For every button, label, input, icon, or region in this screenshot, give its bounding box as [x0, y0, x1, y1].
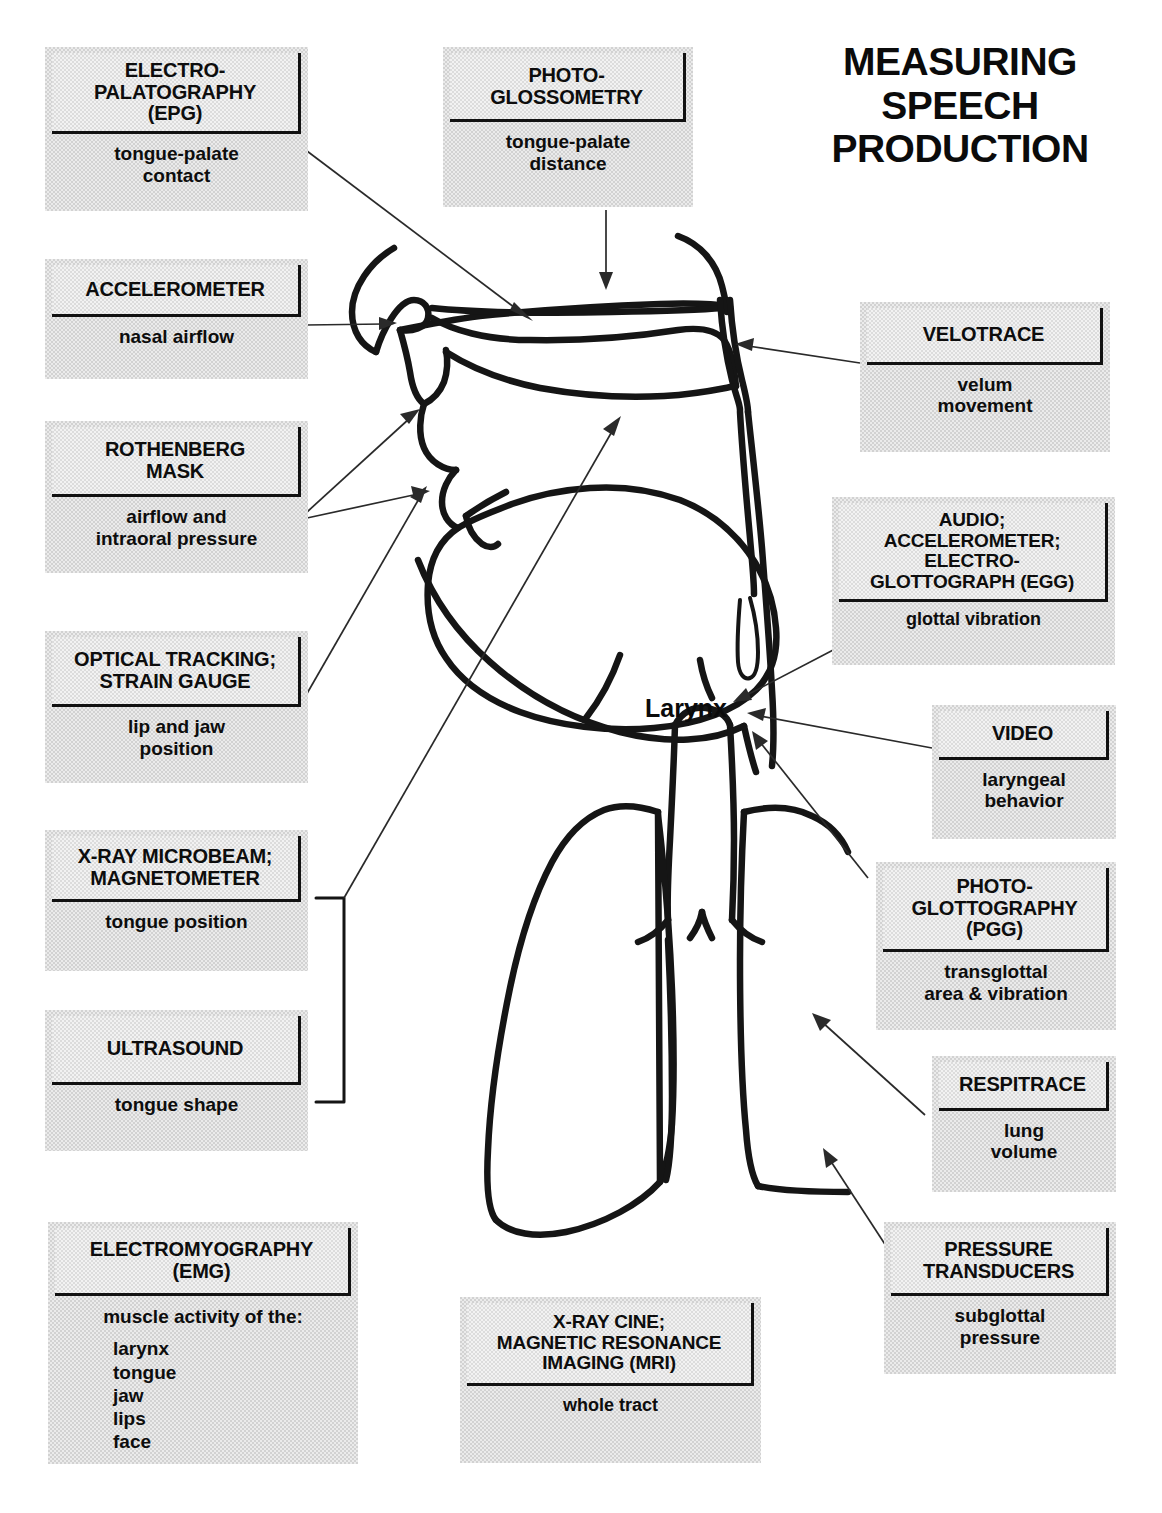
box-ultrasound-desc: tongue shape [52, 1094, 301, 1116]
box-audio-egg-desc: glottal vibration [839, 609, 1108, 630]
box-video-title: VIDEO [945, 723, 1100, 745]
box-electromyography[interactable]: ELECTROMYOGRAPHY (EMG) muscle activity o… [48, 1222, 358, 1464]
box-photoglottography-inner: PHOTO- GLOTTOGRAPHY (PGG) [883, 868, 1109, 952]
box-accelerometer[interactable]: ACCELEROMETER nasal airflow [45, 259, 308, 379]
box-respitrace[interactable]: RESPITRACE lung volume [932, 1056, 1116, 1192]
box-xray-cine-mri[interactable]: X-RAY CINE; MAGNETIC RESONANCE IMAGING (… [460, 1297, 761, 1463]
box-velotrace-desc: velum movement [867, 374, 1103, 418]
box-photoglottography[interactable]: PHOTO- GLOTTOGRAPHY (PGG) transglottal a… [876, 862, 1116, 1030]
box-xray-cine-mri-desc: whole tract [467, 1395, 754, 1416]
arrow-velotrace [735, 338, 860, 363]
box-audio-egg[interactable]: AUDIO; ACCELEROMETER; ELECTRO- GLOTTOGRA… [832, 497, 1115, 665]
arrow-video [747, 708, 932, 748]
box-photoglossometry[interactable]: PHOTO- GLOSSOMETRY tongue-palate distanc… [443, 47, 693, 207]
box-xray-microbeam-inner: X-RAY MICROBEAM; MAGNETOMETER [52, 836, 301, 902]
box-accelerometer-inner: ACCELEROMETER [52, 265, 301, 317]
box-velotrace-inner: VELOTRACE [867, 308, 1103, 365]
box-photoglossometry-desc: tongue-palate distance [450, 131, 686, 175]
box-video-inner: VIDEO [939, 711, 1109, 760]
box-electromyography-desc: muscle activity of the: [55, 1305, 351, 1328]
arrow-pressure [823, 1148, 890, 1252]
diagram-canvas: MEASURING SPEECH PRODUCTION Larynx ELECT… [0, 0, 1162, 1513]
box-accelerometer-desc: nasal airflow [52, 326, 301, 348]
box-xray-cine-mri-title: X-RAY CINE; MAGNETIC RESONANCE IMAGING (… [473, 1312, 745, 1374]
box-audio-egg-title: AUDIO; ACCELEROMETER; ELECTRO- GLOTTOGRA… [845, 510, 1099, 592]
box-ultrasound[interactable]: ULTRASOUND tongue shape [45, 1010, 308, 1151]
box-electromyography-inner: ELECTROMYOGRAPHY (EMG) [55, 1228, 351, 1296]
arrow-rothenberg-nose [307, 409, 420, 512]
box-photoglottography-title: PHOTO- GLOTTOGRAPHY (PGG) [889, 876, 1100, 941]
box-photoglossometry-title: PHOTO- GLOSSOMETRY [456, 65, 677, 108]
box-rothenberg-mask-desc: airflow and intraoral pressure [52, 506, 301, 550]
arrow-tongue [344, 416, 621, 898]
box-pressure-transducers-inner: PRESSURE TRANSDUCERS [891, 1228, 1109, 1296]
box-ultrasound-inner: ULTRASOUND [52, 1016, 301, 1085]
box-electropalatography[interactable]: ELECTRO- PALATOGRAPHY (EPG) tongue-palat… [45, 47, 308, 211]
arrow-pgg [752, 731, 868, 878]
box-xray-microbeam[interactable]: X-RAY MICROBEAM; MAGNETOMETER tongue pos… [45, 830, 308, 971]
box-rothenberg-mask-inner: ROTHENBERG MASK [52, 427, 301, 497]
box-pressure-transducers-desc: subglottal pressure [891, 1305, 1109, 1349]
box-rothenberg-mask-title: ROTHENBERG MASK [58, 439, 292, 482]
larynx-label: Larynx [645, 694, 727, 723]
box-optical-tracking-title: OPTICAL TRACKING; STRAIN GAUGE [58, 649, 292, 692]
box-video-desc: laryngeal behavior [939, 769, 1109, 813]
box-electropalatography-title: ELECTRO- PALATOGRAPHY (EPG) [58, 60, 292, 125]
box-photoglottography-desc: transglottal area & vibration [883, 961, 1109, 1005]
box-respitrace-inner: RESPITRACE [939, 1062, 1109, 1111]
box-optical-tracking[interactable]: OPTICAL TRACKING; STRAIN GAUGE lip and j… [45, 631, 308, 783]
arrow-accelerometer [306, 317, 397, 330]
box-electropalatography-desc: tongue-palate contact [52, 143, 301, 187]
box-electromyography-muscle-list: larynx tongue jaw lips face [55, 1337, 351, 1453]
arrow-audio-egg [733, 648, 837, 702]
arrow-optical [305, 486, 427, 697]
box-respitrace-title: RESPITRACE [945, 1074, 1100, 1096]
box-xray-microbeam-title: X-RAY MICROBEAM; MAGNETOMETER [58, 846, 292, 889]
box-ultrasound-title: ULTRASOUND [58, 1038, 292, 1060]
box-respitrace-desc: lung volume [939, 1120, 1109, 1164]
arrow-rothenberg-lips [307, 486, 430, 518]
box-electropalatography-inner: ELECTRO- PALATOGRAPHY (EPG) [52, 53, 301, 134]
box-electromyography-title: ELECTROMYOGRAPHY (EMG) [61, 1239, 342, 1282]
box-velotrace[interactable]: VELOTRACE velum movement [860, 302, 1110, 452]
box-optical-tracking-inner: OPTICAL TRACKING; STRAIN GAUGE [52, 637, 301, 707]
box-pressure-transducers[interactable]: PRESSURE TRANSDUCERS subglottal pressure [884, 1222, 1116, 1374]
box-pressure-transducers-title: PRESSURE TRANSDUCERS [897, 1239, 1100, 1282]
page-title: MEASURING SPEECH PRODUCTION [770, 40, 1150, 171]
box-xray-cine-mri-inner: X-RAY CINE; MAGNETIC RESONANCE IMAGING (… [467, 1303, 754, 1386]
box-optical-tracking-desc: lip and jaw position [52, 716, 301, 760]
box-photoglossometry-inner: PHOTO- GLOSSOMETRY [450, 53, 686, 122]
box-audio-egg-inner: AUDIO; ACCELEROMETER; ELECTRO- GLOTTOGRA… [839, 503, 1108, 602]
arrow-photoglossometry [599, 210, 613, 290]
box-rothenberg-mask[interactable]: ROTHENBERG MASK airflow and intraoral pr… [45, 421, 308, 573]
box-xray-microbeam-desc: tongue position [52, 911, 301, 933]
box-accelerometer-title: ACCELEROMETER [58, 279, 292, 301]
box-velotrace-title: VELOTRACE [873, 324, 1094, 346]
box-video[interactable]: VIDEO laryngeal behavior [932, 705, 1116, 839]
